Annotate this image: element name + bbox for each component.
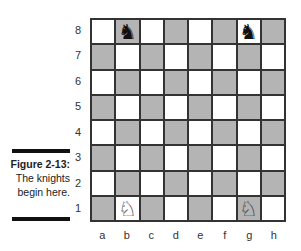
square-e5 xyxy=(188,95,212,120)
square-d3 xyxy=(164,145,188,170)
caption-top-rule xyxy=(12,149,70,153)
black-knight-icon: ♞ xyxy=(239,21,258,42)
square-b4 xyxy=(115,120,139,145)
file-label-f: f xyxy=(213,229,237,241)
square-c2 xyxy=(140,171,164,196)
square-a7 xyxy=(91,44,115,69)
rank-label-6: 6 xyxy=(72,75,84,87)
square-c8 xyxy=(140,19,164,44)
rank-label-2: 2 xyxy=(72,177,84,189)
square-c1 xyxy=(140,196,164,221)
square-d5 xyxy=(164,95,188,120)
square-f6 xyxy=(212,70,236,95)
square-e6 xyxy=(188,70,212,95)
square-e7 xyxy=(188,44,212,69)
square-c7 xyxy=(140,44,164,69)
square-c3 xyxy=(140,145,164,170)
file-label-e: e xyxy=(188,229,212,241)
square-f5 xyxy=(212,95,236,120)
rank-label-5: 5 xyxy=(72,100,84,112)
square-h8 xyxy=(261,19,285,44)
square-g1: ♘ xyxy=(237,196,261,221)
white-knight-icon: ♘ xyxy=(239,198,258,219)
square-h7 xyxy=(261,44,285,69)
caption-bottom-rule xyxy=(12,217,70,221)
square-b6 xyxy=(115,70,139,95)
file-label-c: c xyxy=(139,229,163,241)
square-b8: ♞ xyxy=(115,19,139,44)
file-label-b: b xyxy=(115,229,139,241)
file-label-h: h xyxy=(262,229,286,241)
square-e2 xyxy=(188,171,212,196)
square-h1 xyxy=(261,196,285,221)
caption-line-2: begin here. xyxy=(0,185,70,199)
square-g2 xyxy=(237,171,261,196)
figure-title: Figure 2-13: xyxy=(0,157,70,171)
square-b1: ♘ xyxy=(115,196,139,221)
square-c4 xyxy=(140,120,164,145)
square-h2 xyxy=(261,171,285,196)
square-b3 xyxy=(115,145,139,170)
square-g5 xyxy=(237,95,261,120)
square-a3 xyxy=(91,145,115,170)
square-d6 xyxy=(164,70,188,95)
caption-line-1: The knights xyxy=(0,171,70,185)
square-h3 xyxy=(261,145,285,170)
file-label-g: g xyxy=(237,229,261,241)
square-f7 xyxy=(212,44,236,69)
rank-label-7: 7 xyxy=(72,49,84,61)
square-e4 xyxy=(188,120,212,145)
white-knight-icon: ♘ xyxy=(118,198,137,219)
square-a8 xyxy=(91,19,115,44)
square-e3 xyxy=(188,145,212,170)
figure-caption: Figure 2-13: The knights begin here. xyxy=(0,157,70,199)
square-c6 xyxy=(140,70,164,95)
square-f1 xyxy=(212,196,236,221)
square-f4 xyxy=(212,120,236,145)
square-a5 xyxy=(91,95,115,120)
square-a6 xyxy=(91,70,115,95)
rank-label-3: 3 xyxy=(72,151,84,163)
square-d7 xyxy=(164,44,188,69)
square-a2 xyxy=(91,171,115,196)
square-e1 xyxy=(188,196,212,221)
square-d1 xyxy=(164,196,188,221)
square-g7 xyxy=(237,44,261,69)
file-label-a: a xyxy=(90,229,114,241)
square-h5 xyxy=(261,95,285,120)
square-d4 xyxy=(164,120,188,145)
rank-label-1: 1 xyxy=(72,202,84,214)
rank-label-8: 8 xyxy=(72,24,84,36)
square-b5 xyxy=(115,95,139,120)
square-b2 xyxy=(115,171,139,196)
square-f2 xyxy=(212,171,236,196)
square-b7 xyxy=(115,44,139,69)
square-f3 xyxy=(212,145,236,170)
square-g8: ♞ xyxy=(237,19,261,44)
square-h6 xyxy=(261,70,285,95)
square-a4 xyxy=(91,120,115,145)
square-a1 xyxy=(91,196,115,221)
square-c5 xyxy=(140,95,164,120)
rank-label-4: 4 xyxy=(72,126,84,138)
chess-board: ♞♞♘♘ xyxy=(90,18,286,222)
square-g6 xyxy=(237,70,261,95)
square-d2 xyxy=(164,171,188,196)
black-knight-icon: ♞ xyxy=(118,21,137,42)
square-d8 xyxy=(164,19,188,44)
square-g3 xyxy=(237,145,261,170)
square-e8 xyxy=(188,19,212,44)
square-h4 xyxy=(261,120,285,145)
square-g4 xyxy=(237,120,261,145)
file-label-d: d xyxy=(164,229,188,241)
square-f8 xyxy=(212,19,236,44)
